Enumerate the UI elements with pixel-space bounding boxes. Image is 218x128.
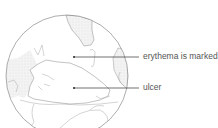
- ulcer-label: ulcer: [143, 83, 161, 92]
- erythema-leader: [73, 56, 139, 58]
- erythema-label: erythema is marked: [143, 52, 218, 61]
- erythema-region-right: [113, 48, 128, 90]
- lesion-diagram: [0, 0, 218, 128]
